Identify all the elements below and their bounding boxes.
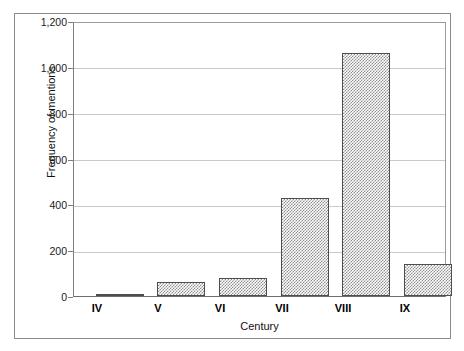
- x-tick-label-vi: VI: [194, 303, 246, 314]
- y-tick-mark-0: [68, 297, 73, 298]
- y-tick-label-600: 600: [49, 155, 67, 166]
- x-tick-label-ix: IX: [379, 303, 431, 314]
- plot-area: [73, 22, 446, 297]
- bar-vii: [281, 198, 329, 296]
- bar-viii: [342, 53, 390, 296]
- y-tick-label-1200: 1,200: [41, 17, 67, 28]
- x-axis-title: Century: [73, 320, 446, 332]
- y-tick-label-400: 400: [49, 200, 67, 211]
- x-tick-label-vii: VII: [256, 303, 308, 314]
- y-tick-label-1000: 1,000: [41, 63, 67, 74]
- y-tick-label-800: 800: [49, 109, 67, 120]
- x-tick-label-viii: VIII: [317, 303, 369, 314]
- bar-vi: [219, 278, 267, 296]
- bar-v: [157, 282, 205, 296]
- bar-iv: [96, 294, 144, 296]
- x-tick-label-iv: IV: [71, 303, 123, 314]
- y-tick-label-0: 0: [61, 292, 67, 303]
- bar-ix: [404, 264, 452, 296]
- y-axis-tick-labels: 1,200 1,000 800 600 400 200 0: [18, 0, 67, 351]
- x-tick-label-v: V: [132, 303, 184, 314]
- y-tick-label-200: 200: [49, 246, 67, 257]
- bar-chart-figure: Frequency of mentions 1,200 1,000 800 60…: [0, 0, 464, 351]
